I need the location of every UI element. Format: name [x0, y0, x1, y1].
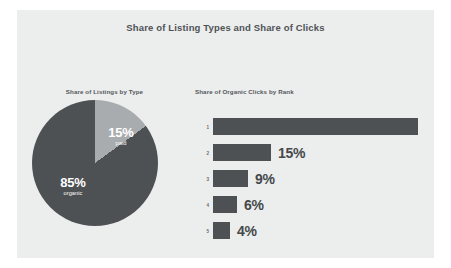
bar-4 — [213, 196, 237, 213]
table-row: 3 9% — [187, 170, 434, 187]
bar-value-3: 9% — [255, 171, 275, 187]
bar-1 — [213, 118, 418, 135]
chart-panel: Share of Listing Types and Share of Clic… — [17, 10, 434, 258]
bar-2 — [213, 144, 271, 161]
bar-rank-label: 4 — [201, 202, 209, 207]
bar-value-2: 15% — [278, 145, 305, 161]
bar-5 — [213, 222, 230, 239]
bar-chart-title: Share of Organic Clicks by Rank — [195, 88, 294, 95]
pie-chart — [32, 100, 158, 226]
table-row: 5 4% — [187, 222, 434, 239]
pie-chart-section: Share of Listings by Type 15% paid 85% o… — [17, 88, 192, 253]
page-title: Share of Listing Types and Share of Clic… — [17, 22, 434, 33]
bar-rank-label: 5 — [201, 228, 209, 233]
bar-rank-label: 2 — [201, 150, 209, 155]
table-row: 1 — [187, 118, 434, 135]
pie-slice-name-paid: paid — [94, 139, 148, 147]
pie-slice-label-organic: 85% organic — [43, 176, 103, 197]
pie-slice-pct-paid: 15% — [94, 126, 148, 139]
pie-slice-pct-organic: 85% — [43, 176, 103, 189]
pie-slice-label-paid: 15% paid — [94, 126, 148, 147]
bar-chart-section: Share of Organic Clicks by Rank 1 2 15% … — [187, 88, 434, 258]
bar-value-5: 4% — [237, 223, 257, 239]
bar-rank-label: 3 — [201, 176, 209, 181]
table-row: 2 15% — [187, 144, 434, 161]
bar-value-4: 6% — [244, 197, 264, 213]
table-row: 4 6% — [187, 196, 434, 213]
bar-3 — [213, 170, 248, 187]
pie-slice-name-organic: organic — [43, 189, 103, 197]
bar-rank-label: 1 — [201, 124, 209, 129]
pie-chart-title: Share of Listings by Type — [17, 88, 192, 95]
